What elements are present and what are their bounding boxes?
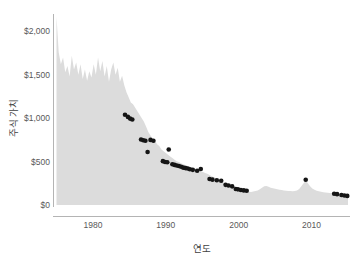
y-tick-label: $500 <box>31 157 50 167</box>
x-tick-label: 1990 <box>156 220 175 230</box>
scatter-point <box>143 138 148 143</box>
y-tick-label: $2,000 <box>24 26 50 36</box>
scatter-point <box>303 178 308 183</box>
scatter-point <box>151 138 156 143</box>
scatter-point <box>215 178 220 183</box>
scatter-point <box>198 167 203 172</box>
scatter-point <box>190 168 195 173</box>
scatter-point <box>335 192 340 197</box>
scatter-point <box>210 177 215 182</box>
scatter-point <box>219 178 224 183</box>
y-tick-label: $1,000 <box>24 113 50 123</box>
x-tick-label: 1980 <box>83 220 102 230</box>
scatter-point <box>145 150 150 155</box>
x-tick-label: 2010 <box>302 220 321 230</box>
scatter-point <box>165 160 170 165</box>
stock-value-area-chart: $0$500$1,000$1,500$2,000 198019902000201… <box>0 0 359 267</box>
scatter-point <box>244 188 249 193</box>
y-tick-label: $1,500 <box>24 70 50 80</box>
chart-root: $0$500$1,000$1,500$2,000 198019902000201… <box>0 0 359 267</box>
x-axis-title: 연도 <box>193 243 211 254</box>
scatter-point <box>130 117 135 122</box>
y-tick-label: $0 <box>41 200 51 210</box>
scatter-point <box>166 147 171 152</box>
scatter-point <box>345 194 350 199</box>
x-tick-label: 2000 <box>229 220 248 230</box>
y-axis-title: 주식 가치 <box>8 99 19 138</box>
